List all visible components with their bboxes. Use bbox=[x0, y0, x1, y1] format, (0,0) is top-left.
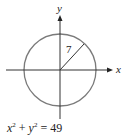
y-axis-label: y bbox=[56, 2, 62, 14]
circle-diagram: x y 7 x2 + y2 = 49 bbox=[0, 0, 122, 138]
eq-rhs: 49 bbox=[50, 121, 62, 135]
eq-equals: = bbox=[40, 121, 47, 135]
radius-label: 7 bbox=[66, 43, 72, 55]
diagram-svg: x y 7 bbox=[0, 0, 122, 138]
x-axis-label: x bbox=[115, 63, 121, 75]
eq-x-exponent: 2 bbox=[12, 121, 16, 129]
y-axis-arrow-icon bbox=[58, 15, 63, 21]
radius-line bbox=[60, 44, 84, 70]
x-axis-arrow-icon bbox=[107, 68, 113, 73]
eq-plus: + bbox=[19, 121, 26, 135]
equation: x2 + y2 = 49 bbox=[7, 121, 62, 136]
eq-y-exponent: 2 bbox=[34, 121, 38, 129]
